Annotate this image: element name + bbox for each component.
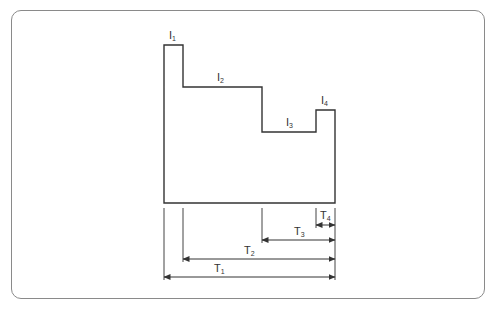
load-profile-diagram bbox=[0, 0, 498, 309]
duration-label-t2: T2 bbox=[244, 245, 255, 257]
load-profile-outline bbox=[164, 45, 335, 203]
level-label-l2: I2 bbox=[217, 72, 224, 84]
duration-label-t3: T3 bbox=[294, 226, 305, 238]
duration-label-t1: T1 bbox=[214, 263, 225, 275]
level-label-l1: I1 bbox=[169, 30, 176, 42]
level-label-l4: I4 bbox=[321, 95, 328, 107]
level-label-l3: I3 bbox=[286, 117, 293, 129]
duration-label-t4: T4 bbox=[320, 210, 331, 222]
